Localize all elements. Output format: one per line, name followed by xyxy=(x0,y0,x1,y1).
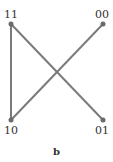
node-10 xyxy=(9,118,14,123)
node-label-11: 11 xyxy=(4,9,18,20)
node-01 xyxy=(101,118,106,123)
node-00 xyxy=(101,22,106,27)
node-11 xyxy=(9,22,14,27)
node-label-00: 00 xyxy=(95,9,109,20)
node-label-01: 01 xyxy=(95,125,109,136)
node-label-10: 10 xyxy=(4,125,18,136)
diagram: 11 00 10 01 b xyxy=(0,0,113,162)
figure-caption: b xyxy=(0,146,113,157)
graph-canvas xyxy=(0,0,113,162)
